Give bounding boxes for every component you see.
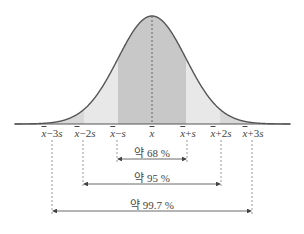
axis-tick-label: x−2s [75,127,96,139]
s-symbol: s [227,127,231,139]
range-percent-label: 약 95 % [134,169,170,185]
s-symbol: s [191,127,195,139]
normal-distribution-diagram: x−3sx−2sx−sxx+sx+2sx+3s 약 68 %약 95 %약 99… [0,0,304,234]
s-symbol: s [259,127,263,139]
axis-tick-label: x−3s [42,127,63,139]
axis-tick-label: x+3s [243,127,264,139]
tick-operator: −2 [79,127,91,139]
range-percent-label: 약 99.7 % [130,196,174,212]
s-symbol: s [91,127,95,139]
axis-tick-label: x+2s [211,127,232,139]
range-percent-label: 약 68 % [134,144,170,160]
tick-operator: +3 [247,127,259,139]
tick-operator: +2 [215,127,227,139]
s-symbol: s [58,127,62,139]
axis-tick-label: x−s [110,127,125,139]
axis-tick-label: x [150,127,155,139]
x-bar-symbol: x [150,127,155,139]
axis-tick-label: x+s [180,127,195,139]
s-symbol: s [121,127,125,139]
tick-operator: −3 [46,127,58,139]
